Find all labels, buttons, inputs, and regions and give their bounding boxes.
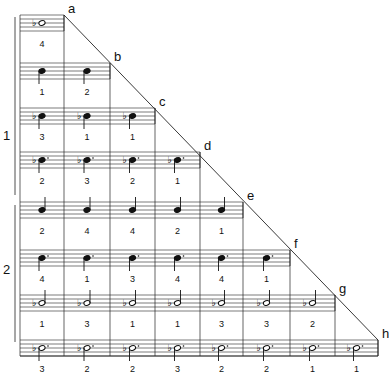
svg-text:♭: ♭ (32, 343, 36, 353)
note-f-4 (174, 255, 182, 271)
note-e-5 (218, 197, 226, 213)
group-label-2: 2 (3, 262, 10, 277)
dot (183, 157, 185, 159)
note-b-1 (38, 68, 46, 84)
dot (272, 345, 274, 347)
note-e-2 (83, 197, 91, 213)
note-f-1 (38, 255, 46, 271)
fingering-number: 3 (79, 177, 95, 186)
dot (92, 345, 94, 347)
fingering-number: 2 (34, 227, 50, 236)
row-letter-c: c (159, 95, 166, 108)
note-e-1 (38, 197, 46, 213)
fingering-number: 1 (170, 177, 186, 186)
dot (138, 255, 140, 257)
note-f-5 (218, 255, 226, 271)
fingering-number: 3 (214, 320, 230, 329)
dot (47, 345, 49, 347)
row-letter-h: h (382, 327, 389, 340)
svg-text:♭: ♭ (77, 298, 81, 308)
dot (47, 255, 49, 257)
row-letter-d: d (204, 139, 211, 152)
dot (92, 157, 94, 159)
row-letter-e: e (247, 189, 254, 202)
svg-text:♭: ♭ (168, 155, 172, 165)
note-f-2 (83, 255, 91, 271)
svg-text:♭: ♭ (32, 298, 36, 308)
fingering-number: 2 (214, 365, 230, 374)
fingering-number: 3 (259, 320, 275, 329)
group-label-1: 1 (3, 128, 10, 143)
fingering-number: 4 (34, 275, 50, 284)
fingering-number: 3 (34, 365, 50, 374)
fingering-number: 1 (79, 275, 95, 284)
fingering-number: 1 (214, 227, 230, 236)
svg-text:♭: ♭ (123, 111, 127, 121)
row-letter-f: f (294, 237, 298, 250)
fingering-number: 3 (170, 365, 186, 374)
svg-text:♭: ♭ (32, 111, 36, 121)
fingering-number: 3 (79, 320, 95, 329)
fingering-number: 1 (305, 365, 321, 374)
dot (92, 255, 94, 257)
svg-text:♭: ♭ (123, 298, 127, 308)
svg-text:♭: ♭ (168, 343, 172, 353)
fingering-number: 1 (34, 88, 50, 97)
note-f-3 (129, 255, 137, 271)
svg-text:♭: ♭ (212, 343, 216, 353)
note-e-4 (174, 197, 182, 213)
svg-text:♭: ♭ (303, 298, 307, 308)
fingering-number: 4 (79, 227, 95, 236)
row-letter-g: g (339, 282, 346, 295)
diagonal-line (64, 15, 378, 340)
fingering-number: 2 (259, 365, 275, 374)
fingering-number: 2 (34, 177, 50, 186)
fingering-number: 1 (349, 365, 365, 374)
fingering-number: 4 (170, 275, 186, 284)
fingering-number: 2 (79, 365, 95, 374)
fingering-number: 4 (214, 275, 230, 284)
svg-text:♭: ♭ (123, 155, 127, 165)
svg-text:♭: ♭ (168, 298, 172, 308)
fingering-number: 1 (170, 320, 186, 329)
row-letter-a: a (68, 2, 75, 15)
dot (183, 255, 185, 257)
fingering-number: 1 (259, 275, 275, 284)
dot (318, 345, 320, 347)
fingering-number: 1 (125, 133, 141, 142)
note-e-3 (129, 197, 137, 213)
svg-text:♭: ♭ (347, 343, 351, 353)
dot (272, 255, 274, 257)
fingering-number: 3 (125, 275, 141, 284)
dot (227, 255, 229, 257)
note-f-6 (263, 255, 271, 271)
fingering-number: 2 (125, 177, 141, 186)
note-b-2 (83, 68, 91, 84)
dot (138, 157, 140, 159)
fingering-number: 3 (34, 133, 50, 142)
dot (362, 345, 364, 347)
fingering-number: 2 (305, 320, 321, 329)
fingering-number: 2 (79, 88, 95, 97)
svg-text:♭: ♭ (32, 18, 36, 28)
dot (227, 345, 229, 347)
fingering-number: 4 (34, 40, 50, 49)
dot (138, 345, 140, 347)
fingering-number: 2 (170, 227, 186, 236)
svg-text:♭: ♭ (32, 155, 36, 165)
fingering-number: 1 (79, 133, 95, 142)
svg-text:♭: ♭ (212, 298, 216, 308)
fingering-number: 1 (34, 320, 50, 329)
svg-text:♭: ♭ (257, 298, 261, 308)
fingering-number: 4 (125, 227, 141, 236)
row-letter-b: b (114, 50, 121, 63)
svg-text:♭: ♭ (77, 155, 81, 165)
fingering-number: 1 (125, 320, 141, 329)
note-a-1: ♭ (32, 18, 46, 28)
svg-text:♭: ♭ (257, 343, 261, 353)
svg-text:♭: ♭ (77, 343, 81, 353)
fingering-number: 2 (125, 365, 141, 374)
svg-text:♭: ♭ (303, 343, 307, 353)
dot (183, 345, 185, 347)
